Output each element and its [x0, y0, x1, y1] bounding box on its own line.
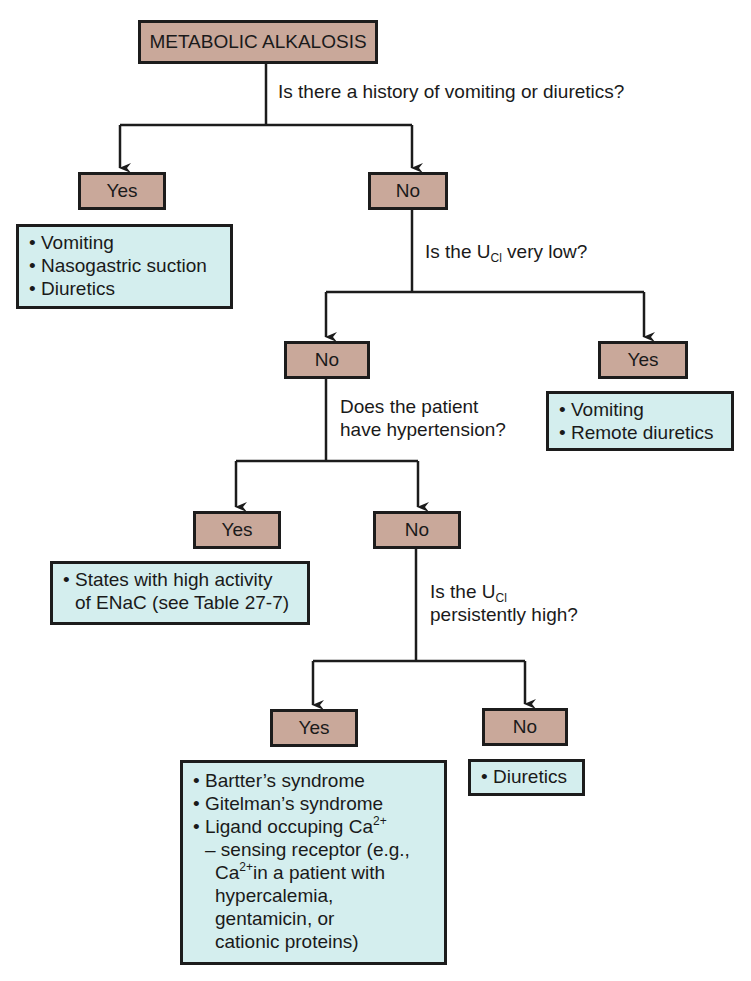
question-history-vomiting-diuretics: Is there a history of vomiting or diuret…: [278, 80, 624, 103]
question-ucl-persistently-high: Is the UCl persistently high?: [430, 580, 578, 626]
q2-yes-node: Yes: [598, 341, 688, 379]
q4-yes-results: Bartter’s syndrome Gitelman’s syndrome L…: [180, 760, 447, 965]
result-item: Gitelman’s syndrome: [193, 792, 436, 815]
result-subitem: hypercalemia,: [193, 884, 436, 907]
result-subitem: cationic proteins): [193, 930, 436, 953]
root-label: METABOLIC ALKALOSIS: [149, 31, 366, 53]
question-ucl-very-low: Is the UCl very low?: [425, 240, 587, 263]
result-item: Bartter’s syndrome: [193, 769, 436, 792]
result-item: Vomiting: [29, 231, 222, 254]
q3-yes-node: Yes: [193, 511, 281, 549]
question-text: Is there a history of vomiting or diuret…: [278, 81, 624, 102]
result-item: States with high activity of ENaC (see T…: [63, 568, 299, 614]
q2-no-label: No: [315, 349, 339, 371]
result-item: Diuretics: [29, 277, 222, 300]
q3-yes-results: States with high activity of ENaC (see T…: [50, 561, 310, 625]
q1-yes-node: Yes: [78, 172, 166, 210]
result-item: Remote diuretics: [559, 421, 723, 444]
result-item: Vomiting: [559, 398, 723, 421]
q4-yes-label: Yes: [299, 717, 330, 739]
q3-yes-label: Yes: [222, 519, 253, 541]
q4-no-results: Diuretics: [468, 759, 585, 796]
root-node-metabolic-alkalosis: METABOLIC ALKALOSIS: [138, 20, 378, 64]
q1-yes-label: Yes: [107, 180, 138, 202]
q2-no-node: No: [284, 341, 370, 379]
result-subitem: – sensing receptor (e.g.,: [193, 838, 436, 861]
q3-no-label: No: [405, 519, 429, 541]
q1-yes-results: Vomiting Nasogastric suction Diuretics: [16, 224, 233, 309]
result-item: Nasogastric suction: [29, 254, 222, 277]
q4-no-label: No: [513, 716, 537, 738]
q4-yes-node: Yes: [270, 709, 358, 747]
result-subitem: gentamicin, or: [193, 907, 436, 930]
q2-yes-label: Yes: [628, 349, 659, 371]
result-subitem: Ca2+in a patient with: [193, 861, 436, 884]
question-hypertension: Does the patient have hypertension?: [340, 395, 506, 441]
q1-no-label: No: [396, 180, 420, 202]
q2-yes-results: Vomiting Remote diuretics: [546, 391, 734, 451]
result-item: Diuretics: [481, 765, 574, 788]
result-item: Ligand occuping Ca2+: [193, 815, 436, 838]
q4-no-node: No: [482, 708, 568, 746]
q3-no-node: No: [373, 511, 461, 549]
q1-no-node: No: [368, 172, 448, 210]
